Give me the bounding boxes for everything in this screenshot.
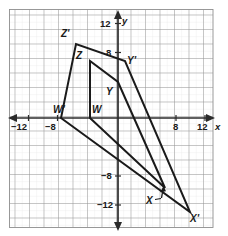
vertex-label-z: Z [76, 51, 82, 61]
x-tick-12: 12 [197, 122, 208, 132]
vertex-label-x-prime: X' [190, 214, 199, 224]
x-tick-neg-12: −12 [11, 122, 27, 132]
vertex-label-y-prime: Y' [127, 56, 136, 66]
x-axis-name: x [215, 122, 220, 132]
y-axis-name: y [122, 16, 127, 26]
vertex-label-w-prime: W' [53, 105, 65, 115]
coordinate-plane-figure: Z' Z Y' Y W' W X X' 12 8 −8 −12 −12 −8 8… [0, 0, 228, 236]
y-tick-neg-8: −8 [101, 171, 112, 181]
vertex-label-x: X [146, 196, 153, 206]
figure-canvas [0, 0, 228, 236]
y-tick-8: 8 [106, 48, 111, 58]
y-tick-neg-12: −12 [97, 200, 113, 210]
vertex-label-z-prime: Z' [61, 29, 70, 39]
x-tick-neg-8: −8 [45, 122, 56, 132]
vertex-label-w: W [92, 105, 101, 115]
vertex-label-y: Y [106, 87, 113, 97]
y-tick-12: 12 [100, 19, 111, 29]
x-tick-8: 8 [173, 122, 178, 132]
